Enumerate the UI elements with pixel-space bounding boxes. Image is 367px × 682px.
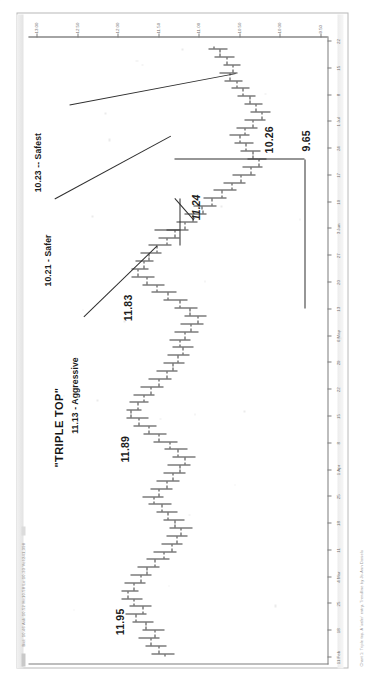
- close-tick: [255, 108, 256, 111]
- price-tick-label: 9.50: [317, 7, 322, 33]
- peak-3-label: 11.83: [121, 294, 133, 321]
- ohlc-bar: [161, 543, 182, 544]
- date-tick: [327, 442, 331, 443]
- measured-move-label: 10.26: [262, 126, 274, 153]
- open-tick: [255, 104, 256, 106]
- open-tick: [143, 395, 144, 397]
- open-tick: [197, 316, 198, 318]
- scan-speckle: [168, 585, 169, 586]
- open-tick: [154, 630, 155, 632]
- open-tick: [240, 175, 241, 177]
- date-tick: [327, 576, 331, 577]
- rotated-chart-canvas: Bid: 10.46 Ask:10.52 Hi:10.58 Lo:10.33 V…: [0, 0, 367, 682]
- date-tick: [327, 147, 331, 148]
- date-tick-label: 1 Apr: [335, 464, 340, 474]
- close-tick: [190, 328, 191, 331]
- close-tick: [145, 626, 146, 629]
- price-tick-label: 12.00: [115, 7, 120, 33]
- ohlc-bar: [163, 519, 184, 520]
- price-tick: [117, 33, 118, 37]
- ohlc-bar: [174, 307, 197, 308]
- scan-speckle: [181, 48, 183, 50]
- scan-speckle: [108, 138, 110, 140]
- close-tick: [142, 611, 143, 614]
- date-tick-label: 25: [335, 494, 340, 499]
- open-tick: [158, 489, 159, 491]
- open-tick: [201, 206, 202, 208]
- close-tick: [229, 77, 230, 80]
- open-tick: [156, 285, 157, 287]
- ohlc-bar: [148, 503, 171, 504]
- ohlc-bar: [163, 362, 184, 363]
- open-tick: [179, 465, 180, 467]
- open-tick: [252, 120, 253, 122]
- close-tick: [232, 69, 233, 72]
- close-tick: [137, 273, 138, 276]
- close-tick: [130, 415, 131, 418]
- ohlc-bar: [214, 56, 233, 57]
- date-tick-label: 1 Jul: [335, 117, 340, 126]
- quote-header-text: Bid: 10.46 Ask:10.52 Hi:10.58 Lo:10.33 V…: [20, 542, 25, 646]
- open-tick: [232, 65, 233, 67]
- quote-header: Bid: 10.46 Ask:10.52 Hi:10.58 Lo:10.33 V…: [18, 526, 27, 666]
- ohlc-bar: [137, 566, 160, 567]
- close-tick: [177, 454, 178, 457]
- close-tick: [158, 438, 159, 441]
- open-tick: [179, 300, 180, 302]
- open-tick: [135, 614, 136, 616]
- open-tick: [226, 57, 227, 59]
- date-tick: [327, 254, 331, 255]
- close-tick: [169, 446, 170, 449]
- date-tick-label: 18: [335, 628, 340, 633]
- close-tick: [174, 524, 175, 527]
- open-tick: [140, 575, 141, 577]
- entry-safer-label: 10.21 - Safer: [42, 234, 52, 286]
- price-chart-plot-area: 13.0012.5012.0011.5011.0010.5010.009.50 …: [28, 36, 328, 664]
- close-tick: [166, 242, 167, 245]
- close-tick: [189, 312, 190, 315]
- ohlc-bar: [148, 244, 171, 245]
- price-tick: [36, 33, 37, 37]
- close-tick: [197, 320, 198, 323]
- close-tick: [211, 203, 212, 206]
- ohlc-bar: [142, 284, 165, 285]
- close-tick: [244, 132, 245, 135]
- ohlc-bar: [244, 119, 265, 120]
- ohlc-bar: [148, 378, 171, 379]
- ohlc-bar: [163, 472, 186, 473]
- date-tick-label: 20: [335, 280, 340, 285]
- ohlc-bar: [163, 299, 187, 300]
- scan-speckle: [204, 280, 205, 282]
- date-tick: [327, 522, 331, 523]
- ohlc-bar-series: [28, 37, 327, 663]
- date-tick-label: 6 May: [335, 330, 340, 342]
- ohlc-bar: [172, 456, 195, 457]
- close-tick: [184, 336, 185, 339]
- scan-speckle: [104, 112, 106, 114]
- date-tick-label: 24: [335, 146, 340, 151]
- price-tick: [198, 33, 199, 37]
- ohlc-bar: [126, 417, 148, 418]
- scan-speckle: [340, 337, 341, 339]
- open-tick: [150, 638, 151, 640]
- date-tick-label: 8: [335, 93, 340, 95]
- close-tick: [167, 297, 168, 300]
- ohlc-bar: [138, 637, 159, 638]
- scanned-page: Bid: 10.46 Ask:10.52 Hi:10.58 Lo:10.33 V…: [0, 0, 367, 682]
- ohlc-bar: [164, 448, 187, 449]
- date-tick-label: 25: [335, 601, 340, 606]
- header-swatch-2: [21, 526, 25, 535]
- date-tick-label: 11: [335, 548, 340, 553]
- ohlc-bar: [208, 48, 227, 49]
- date-tick: [327, 602, 331, 603]
- ohlc-bar: [151, 291, 175, 292]
- open-tick: [182, 347, 183, 349]
- price-tick-label: 12.50: [74, 7, 79, 33]
- date-tick: [327, 335, 331, 336]
- open-tick: [231, 183, 232, 185]
- scan-speckle: [63, 395, 64, 396]
- neckline-stem: [154, 229, 179, 230]
- close-tick: [249, 101, 250, 104]
- open-tick: [190, 324, 191, 326]
- date-tick: [327, 388, 331, 389]
